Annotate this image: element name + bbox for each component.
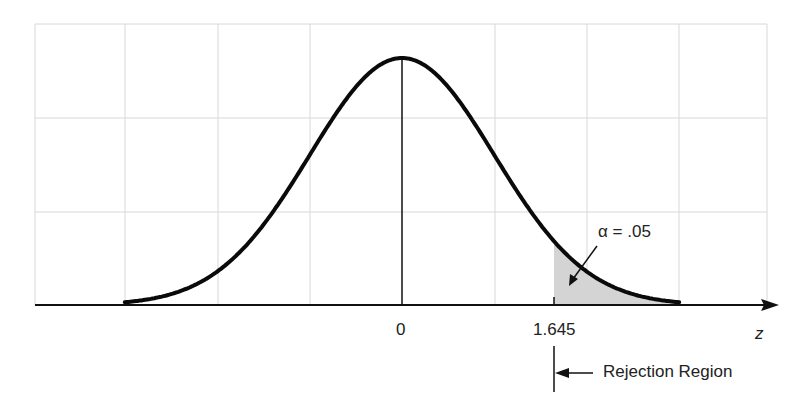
rejection-region-marker — [554, 346, 593, 392]
tick-label-critical-value: 1.645 — [533, 320, 576, 340]
rejection-region-label: Rejection Region — [603, 362, 732, 382]
tick-label-zero: 0 — [396, 320, 405, 340]
alpha-annotation: α = .05 — [598, 222, 651, 242]
rejection-region-shading — [554, 241, 679, 305]
grid — [35, 24, 767, 305]
axis-label-z: z — [755, 324, 764, 344]
normal-distribution-chart — [0, 0, 798, 412]
